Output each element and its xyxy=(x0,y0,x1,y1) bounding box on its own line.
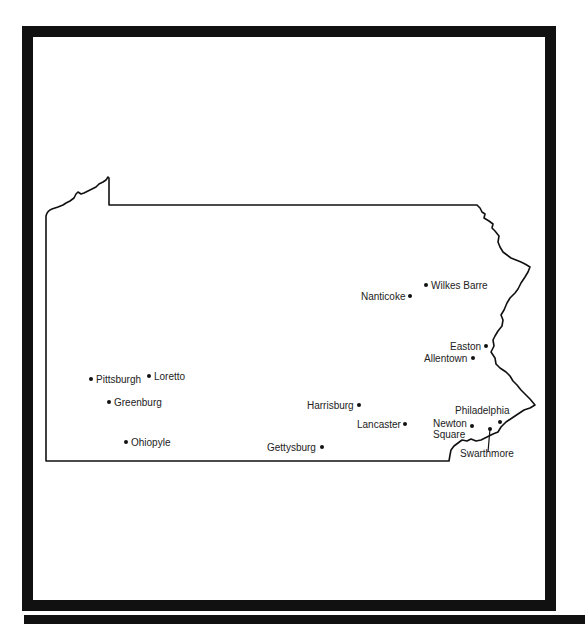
city-marker-swarthmore xyxy=(488,427,492,431)
city-marker-philadelphia xyxy=(498,420,502,424)
city-marker-gettysburg xyxy=(320,445,324,449)
city-label-nanticoke: Nanticoke xyxy=(361,291,405,302)
city-marker-wilkes-barre xyxy=(424,283,428,287)
pennsylvania-outline xyxy=(0,0,585,624)
city-label-greenburg: Greenburg xyxy=(114,397,162,408)
city-label-wilkes-barre: Wilkes Barre xyxy=(431,280,488,291)
city-marker-ohiopyle xyxy=(124,440,128,444)
city-marker-harrisburg xyxy=(357,403,361,407)
city-label-newton-square: NewtonSquare xyxy=(433,418,467,440)
city-marker-pittsburgh xyxy=(89,377,93,381)
city-label-allentown: Allentown xyxy=(424,353,467,364)
city-label-harrisburg: Harrisburg xyxy=(307,400,354,411)
city-marker-loretto xyxy=(147,374,151,378)
city-marker-easton xyxy=(484,344,488,348)
city-label-easton: Easton xyxy=(450,341,481,352)
city-label-lancaster: Lancaster xyxy=(357,419,401,430)
city-marker-newton-square xyxy=(470,424,474,428)
city-marker-greenburg xyxy=(107,400,111,404)
city-label-swarthmore: Swarthmore xyxy=(460,448,514,459)
city-label-ohiopyle: Ohiopyle xyxy=(131,437,170,448)
city-label-pittsburgh: Pittsburgh xyxy=(96,374,141,385)
city-label-philadelphia: Philadelphia xyxy=(455,405,510,416)
city-marker-allentown xyxy=(471,356,475,360)
city-label-loretto: Loretto xyxy=(154,371,185,382)
city-marker-nanticoke xyxy=(408,294,412,298)
city-label-gettysburg: Gettysburg xyxy=(267,442,316,453)
city-marker-lancaster xyxy=(403,422,407,426)
